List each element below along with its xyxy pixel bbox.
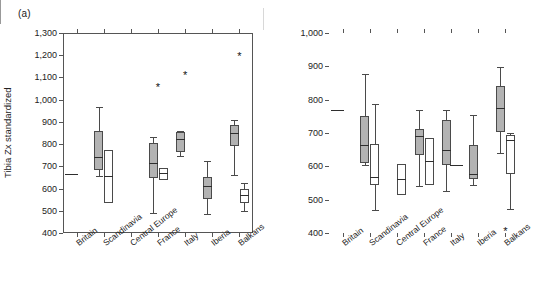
median-line (425, 161, 434, 162)
x-axis-tick-top (185, 29, 186, 33)
panel-a-y-axis-title: Tibia Zx standardized (2, 41, 13, 225)
whisker-lower (419, 155, 420, 187)
median-line (240, 195, 249, 196)
median-line (176, 139, 185, 140)
y-axis-tick-label: 1,200 (15, 50, 57, 60)
y-axis-tick-label: 600 (281, 161, 323, 171)
x-axis-tick-top (424, 29, 425, 33)
box-filled-france (149, 143, 158, 178)
significance-asterisk: * (183, 72, 187, 78)
whisker-cap-lower (177, 156, 184, 157)
y-axis-tick-label: 900 (15, 117, 57, 127)
whisker-cap-upper (470, 115, 477, 116)
whisker-cap-lower (443, 191, 450, 192)
box-single-line-filled (65, 174, 78, 175)
y-axis-tick-label: 500 (15, 206, 57, 216)
y-axis-tick (59, 233, 63, 234)
box-filled-scandinavia (94, 131, 103, 170)
whisker-cap-lower (362, 165, 369, 166)
whisker-lower (234, 146, 235, 176)
x-axis-tick-top (212, 29, 213, 33)
y-axis-tick (59, 166, 63, 167)
x-axis-tick-top (77, 29, 78, 33)
whisker-cap-upper (241, 183, 248, 184)
y-axis-tick (325, 133, 329, 134)
y-axis-tick (325, 200, 329, 201)
whisker-upper (375, 104, 376, 144)
box-filled-balkans (496, 86, 505, 132)
median-line (94, 157, 103, 158)
median-line (469, 174, 478, 175)
y-axis-tick (59, 144, 63, 145)
whisker-cap-lower (372, 210, 379, 211)
whisker-cap-lower (96, 176, 103, 177)
whisker-upper (500, 67, 501, 86)
whisker-cap-lower (204, 214, 211, 215)
whisker-cap-lower (231, 175, 238, 176)
y-axis-tick (59, 211, 63, 212)
x-axis-tick-top (239, 29, 240, 33)
y-axis-tick-label: 1,000 (281, 28, 323, 38)
median-line (397, 179, 406, 180)
box-filled-italy (442, 120, 451, 165)
box-filled-france (415, 129, 424, 155)
median-line (442, 150, 451, 151)
y-axis-tick-label: 600 (15, 184, 57, 194)
y-axis-tick-label: 500 (281, 195, 323, 205)
whisker-lower (510, 174, 511, 209)
y-axis-tick-label: 1,300 (15, 28, 57, 38)
whisker-cap-lower (241, 211, 248, 212)
whisker-lower (207, 199, 208, 214)
significance-asterisk: * (156, 84, 160, 90)
y-axis-tick (59, 77, 63, 78)
whisker-cap-upper (204, 161, 211, 162)
y-axis-tick-label: 400 (281, 228, 323, 238)
median-line (230, 133, 239, 134)
box-open-balkans (506, 135, 515, 174)
figure-root: (a) Tibia Zx standardized (b) Femur Zx s… (0, 0, 533, 308)
y-axis-tick-label: 700 (281, 128, 323, 138)
x-axis-tick-top (451, 29, 452, 33)
x-axis-tick-top (104, 29, 105, 33)
whisker-lower (375, 185, 376, 210)
whisker-upper (473, 115, 474, 145)
whisker-cap-lower (150, 213, 157, 214)
panel-a-plot-area (63, 33, 253, 233)
box-filled-iberia (203, 177, 212, 199)
y-axis-tick (325, 33, 329, 34)
median-line (104, 176, 113, 177)
panel-a: (a) Tibia Zx standardized (0, 0, 266, 308)
y-axis-tick (59, 33, 63, 34)
y-axis-tick (59, 122, 63, 123)
box-single-line-open (450, 165, 463, 166)
box-filled-balkans (230, 125, 239, 146)
median-line (159, 173, 168, 174)
y-axis-tick (325, 100, 329, 101)
whisker-cap-upper (507, 133, 514, 134)
y-axis-tick (59, 189, 63, 190)
whisker-upper (99, 107, 100, 130)
y-axis-tick-label: 800 (15, 139, 57, 149)
whisker-upper (207, 161, 208, 177)
box-filled-italy (176, 132, 185, 152)
median-line (149, 163, 158, 164)
y-axis-tick-label: 400 (15, 228, 57, 238)
y-axis-tick (325, 166, 329, 167)
whisker-cap-upper (96, 107, 103, 108)
whisker-cap-upper (443, 110, 450, 111)
median-line (360, 145, 369, 146)
whisker-upper (365, 74, 366, 117)
panel-a-label: (a) (18, 8, 31, 19)
whisker-cap-lower (416, 186, 423, 187)
y-axis-tick-label: 900 (281, 61, 323, 71)
y-axis-tick (325, 233, 329, 234)
whisker-lower (473, 179, 474, 185)
whisker-cap-lower (497, 153, 504, 154)
median-line (203, 186, 212, 187)
whisker-lower (153, 178, 154, 214)
whisker-lower (446, 165, 447, 191)
x-axis-tick-top (158, 29, 159, 33)
whisker-cap-upper (497, 67, 504, 68)
whisker-upper (446, 110, 447, 121)
y-axis-tick-label: 1,100 (15, 72, 57, 82)
